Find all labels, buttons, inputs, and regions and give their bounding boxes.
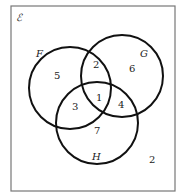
set-label-f: F (35, 48, 44, 59)
venn-diagram: ℰ FGH 52631472 (0, 0, 184, 196)
region-count-g-only: 6 (129, 63, 135, 74)
region-count-outside: 2 (149, 154, 155, 165)
set-label-h: H (91, 151, 101, 162)
region-count-f-g-h: 1 (96, 92, 102, 103)
region-count-f-and-g-only: 2 (93, 59, 99, 70)
universal-set-label: ℰ (16, 12, 23, 23)
set-label-g: G (140, 48, 148, 59)
region-count-f-and-h-only: 3 (72, 101, 78, 112)
region-count-f-only: 5 (54, 70, 60, 81)
region-count-g-and-h-only: 4 (118, 99, 124, 110)
region-count-h-only: 7 (94, 125, 100, 136)
